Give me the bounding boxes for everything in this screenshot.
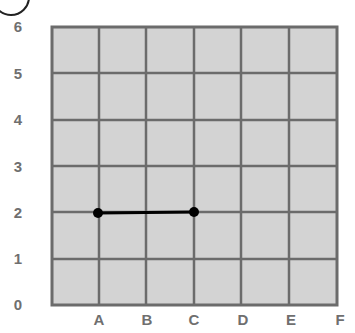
coordinate-grid xyxy=(0,0,355,333)
y-label-5: 5 xyxy=(6,65,30,82)
x-label-e: E xyxy=(281,311,301,328)
y-label-2: 2 xyxy=(6,204,30,221)
y-label-4: 4 xyxy=(6,111,30,128)
point-a2 xyxy=(93,208,103,218)
y-label-3: 3 xyxy=(6,158,30,175)
x-label-d: D xyxy=(233,311,253,328)
point-c2 xyxy=(189,207,199,217)
y-label-1: 1 xyxy=(6,250,30,267)
line-segment-ac xyxy=(98,212,194,213)
x-label-b: B xyxy=(137,311,157,328)
x-label-f: F xyxy=(330,311,350,328)
x-label-a: A xyxy=(89,311,109,328)
y-label-0: 0 xyxy=(6,296,30,313)
y-label-6: 6 xyxy=(6,18,30,35)
x-label-c: C xyxy=(184,311,204,328)
